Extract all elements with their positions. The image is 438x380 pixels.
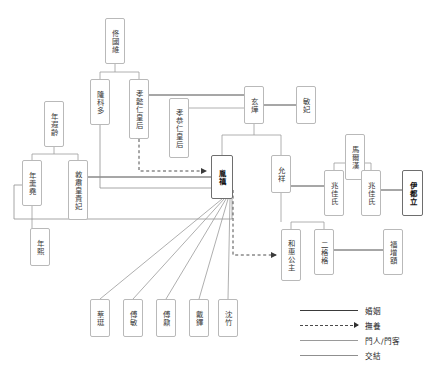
node-fumin[interactable]: 傅敏	[123, 299, 143, 337]
legend-label-retainer: 門人/門客	[365, 335, 400, 346]
legend-label-foster: 撫養	[365, 320, 381, 331]
legend-item-association: 交結	[300, 348, 432, 363]
node-zhaojia1[interactable]: 兆佳氏	[324, 170, 344, 216]
node-zhaojia2[interactable]: 兆佳氏	[361, 170, 381, 216]
node-tong_guowei[interactable]: 佟國維	[105, 18, 125, 64]
legend-label-marriage: 婚姻	[365, 305, 381, 316]
node-nian_xialing[interactable]: 年遐齡	[44, 101, 64, 147]
node-yunxiang[interactable]: 允祥	[271, 155, 291, 193]
legend-item-marriage: 婚姻	[300, 303, 432, 318]
legend-swatch-association	[300, 351, 358, 361]
legend-label-association: 交結	[365, 350, 381, 361]
node-hehui[interactable]: 和惠公主	[281, 229, 301, 281]
node-xiaogongren[interactable]: 孝恭仁皇后	[169, 98, 189, 158]
node-caiting[interactable]: 蔡珽	[90, 299, 110, 337]
node-minfei[interactable]: 敏妃	[296, 86, 316, 124]
node-dunsu[interactable]: 敦肅皇貴妃	[68, 160, 88, 220]
legend-item-retainer: 門人/門客	[300, 333, 432, 348]
node-fuzenge[interactable]: 福增額	[383, 229, 403, 275]
node-funai[interactable]: 傅鼐	[156, 299, 176, 337]
node-yiduli[interactable]: 伊都立	[402, 170, 423, 216]
node-xiaoyiren[interactable]: 孝懿仁皇后	[129, 79, 149, 139]
legend-swatch-marriage	[300, 306, 358, 316]
node-xuanye[interactable]: 玄燁	[244, 86, 264, 124]
node-longkeduo[interactable]: 隆科多	[90, 79, 110, 125]
legend-swatch-foster	[300, 321, 358, 331]
node-daiduo[interactable]: 戴鐸	[189, 299, 209, 337]
node-nian_gengyao[interactable]: 年羹堯	[22, 160, 42, 206]
legend-swatch-retainer	[300, 336, 358, 346]
node-nian_xi[interactable]: 年熙	[30, 228, 50, 266]
edges-retainer	[100, 199, 230, 299]
node-shenzhu[interactable]: 沈竹	[218, 299, 238, 337]
node-erge[interactable]: 二格格	[314, 229, 334, 275]
legend: 婚姻撫養門人/門客交結	[300, 303, 432, 363]
node-yinzhen[interactable]: 胤禛	[211, 155, 233, 199]
legend-item-foster: 撫養	[300, 318, 432, 333]
legend-arrowhead-icon	[354, 322, 359, 328]
relationship-diagram: 佟國維隆科多孝懿仁皇后孝恭仁皇后玄燁敏妃年遐齡馬爾漢年羹堯敦肅皇貴妃胤禛允祥兆佳…	[0, 0, 438, 380]
edges-foster	[139, 139, 276, 255]
